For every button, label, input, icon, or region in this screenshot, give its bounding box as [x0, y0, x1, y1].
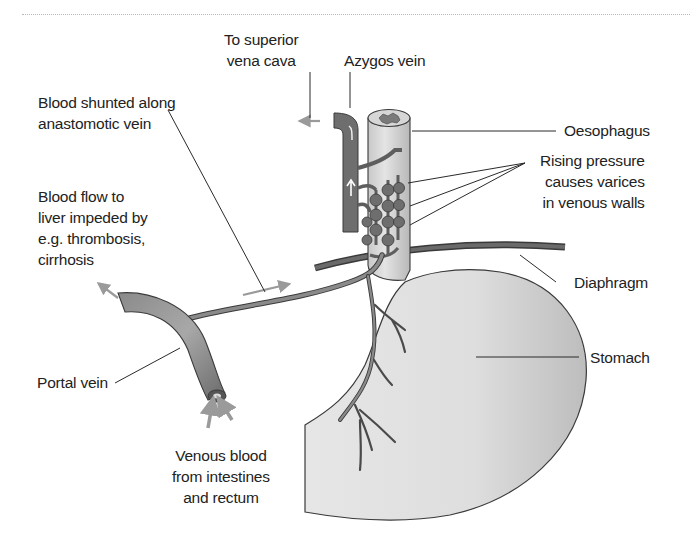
diaphragm-band — [315, 245, 565, 268]
label-venous-blood: Venous blood from intestines and rectum — [172, 445, 270, 508]
stomach-organ — [305, 270, 586, 521]
azygos-vein — [304, 113, 358, 232]
label-superior-vena-cava: To superior vena cava — [224, 29, 298, 71]
label-diaphragm: Diaphragm — [574, 272, 648, 293]
label-shunted-blood: Blood shunted along anastomotic vein — [38, 92, 176, 134]
label-stomach: Stomach — [590, 347, 650, 368]
label-portal-vein: Portal vein — [37, 372, 108, 393]
label-azygos-vein: Azygos vein — [344, 50, 425, 71]
label-impeded-flow: Blood flow to liver impeded by e.g. thro… — [38, 186, 148, 270]
portal-vein — [102, 286, 232, 428]
label-oesophagus: Oesophagus — [564, 120, 650, 141]
label-rising-pressure: Rising pressure causes varices in venous… — [540, 150, 645, 213]
